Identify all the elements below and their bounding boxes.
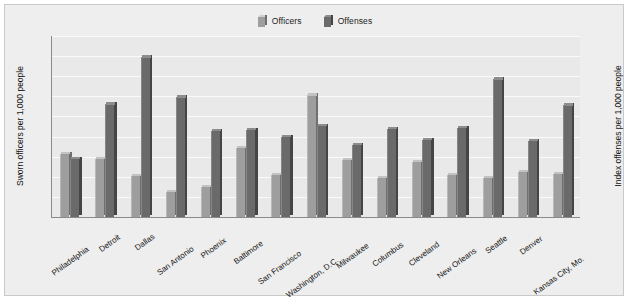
x-tick-label: Milwaukee — [335, 241, 371, 270]
bar-group — [369, 36, 404, 217]
x-tick-label: Denver — [518, 234, 544, 256]
bar-group — [122, 36, 157, 217]
bar-officers[interactable] — [447, 175, 456, 217]
bar-group — [510, 36, 545, 217]
x-tick-label: New Orleans — [435, 246, 478, 280]
x-tick-label: San Antonio — [156, 244, 196, 277]
legend-label-offenses: Offenses — [338, 16, 373, 26]
bar-officers[interactable] — [201, 187, 210, 217]
legend-swatch-officers-icon — [258, 15, 267, 27]
bar-offenses[interactable] — [176, 97, 185, 217]
bar-offenses[interactable] — [352, 145, 361, 217]
legend-label-officers: Officers — [272, 16, 302, 26]
bar-group — [404, 36, 439, 217]
x-tick-label: Detroit — [97, 233, 121, 254]
x-tick-label: Dallas — [133, 232, 156, 252]
bar-officers[interactable] — [131, 176, 140, 217]
bar-officers[interactable] — [60, 154, 69, 217]
bar-officers[interactable] — [236, 148, 245, 217]
x-tick-label: Philadelphia — [50, 245, 91, 278]
x-tick-label: Cleveland — [407, 240, 441, 268]
chart-frame: Officers Offenses 0123456789 02040608010… — [4, 4, 624, 296]
legend-swatch-offenses-icon — [324, 15, 333, 27]
x-tick-label: Baltimore — [232, 239, 265, 266]
bar-group — [545, 36, 580, 217]
bar-offenses[interactable] — [563, 105, 572, 217]
x-axis-category-labels: PhiladelphiaDetroitDallasSan AntonioPhoe… — [51, 219, 579, 299]
bar-offenses[interactable] — [141, 57, 150, 217]
bar-group — [474, 36, 509, 217]
x-tick-label: Columbus — [371, 240, 405, 268]
x-tick-label: Seattle — [484, 234, 509, 256]
bar-offenses[interactable] — [387, 129, 396, 217]
legend-item-officers: Officers — [258, 15, 302, 27]
bar-officers[interactable] — [271, 175, 280, 217]
bar-officers[interactable] — [95, 159, 104, 217]
y-axis-left-title: Sworn officers per 1,000 people — [15, 66, 25, 186]
bar-groups — [52, 36, 580, 217]
bar-offenses[interactable] — [281, 137, 290, 217]
bar-group — [87, 36, 122, 217]
bar-group — [263, 36, 298, 217]
x-tick-label: Phoenix — [200, 236, 229, 260]
bar-offenses[interactable] — [246, 130, 255, 217]
y-axis-right-title: Index offenses per 1,000 people — [613, 65, 623, 186]
bar-group — [439, 36, 474, 217]
bar-offenses[interactable] — [528, 141, 537, 217]
bar-officers[interactable] — [483, 178, 492, 217]
bar-group — [228, 36, 263, 217]
chart-legend: Officers Offenses — [5, 15, 625, 27]
bar-officers[interactable] — [342, 160, 351, 217]
bar-group — [52, 36, 87, 217]
bar-offenses[interactable] — [493, 79, 502, 217]
bar-group — [158, 36, 193, 217]
bar-officers[interactable] — [412, 162, 421, 217]
x-tick-label: San Francisco — [256, 249, 303, 286]
x-tick-label: Kansas City, Mo. — [532, 254, 586, 296]
bar-officers[interactable] — [166, 192, 175, 217]
legend-item-offenses: Offenses — [324, 15, 373, 27]
bar-offenses[interactable] — [211, 131, 220, 217]
bar-officers[interactable] — [553, 174, 562, 217]
bar-officers[interactable] — [518, 172, 527, 217]
bar-offenses[interactable] — [70, 159, 79, 217]
bar-officers[interactable] — [377, 178, 386, 217]
bar-group — [298, 36, 333, 217]
bar-group — [334, 36, 369, 217]
bar-officers[interactable] — [307, 95, 316, 217]
bar-offenses[interactable] — [422, 140, 431, 217]
bar-offenses[interactable] — [457, 128, 466, 217]
bar-offenses[interactable] — [317, 126, 326, 218]
bar-offenses[interactable] — [105, 104, 114, 217]
bar-group — [193, 36, 228, 217]
plot-area: 0123456789 020406080100120140160180 Swor… — [51, 36, 580, 218]
